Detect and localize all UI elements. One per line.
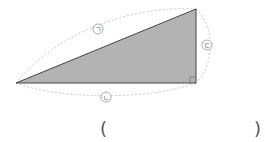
label-base: ㄴ (101, 92, 111, 102)
answer-open-paren: ( (100, 119, 107, 139)
answer-blank[interactable] (112, 119, 252, 141)
svg-text:ㄷ: ㄷ (204, 42, 210, 50)
svg-text:ㄱ: ㄱ (95, 26, 101, 34)
label-hypotenuse: ㄱ (93, 24, 103, 34)
triangle-shape (16, 9, 196, 83)
svg-text:ㄴ: ㄴ (103, 94, 109, 102)
label-height: ㄷ (202, 40, 212, 50)
answer-close-paren: ) (254, 119, 261, 139)
